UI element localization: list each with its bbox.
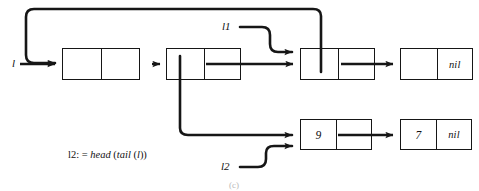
list-node-5-car: 9 (301, 120, 336, 149)
list-node-4: nil (400, 48, 473, 80)
assignment-caption: l2: = head (tail (l)) (68, 149, 147, 160)
figure-number: (c) (229, 180, 239, 190)
list-node-3-cdr (338, 49, 375, 79)
pointer-label-l1: l1 (222, 20, 231, 32)
pointer-label-l2: l2 (221, 160, 230, 172)
list-node-3 (300, 48, 375, 80)
list-node-4-car (401, 49, 437, 79)
list-node-1-cdr (101, 49, 139, 79)
list-node-2-car (167, 49, 204, 79)
edge-l2-to-node5 (240, 146, 292, 167)
caption-close-parens: )) (140, 149, 147, 160)
edge-l1-to-node3 (240, 27, 292, 52)
list-node-6-cdr: nil (436, 120, 471, 149)
list-node-1-car (63, 49, 101, 79)
list-node-1 (62, 48, 140, 80)
list-node-2-cdr (204, 49, 241, 79)
list-node-4-cdr: nil (437, 49, 473, 79)
list-node-2 (166, 48, 241, 80)
list-node-5: 9 (300, 119, 372, 150)
list-node-5-cdr (336, 120, 371, 149)
caption-head-fn: head (90, 149, 110, 160)
linked-list-diagram: l l1 l2 nil 9 7 nil l2: = head (tail (l)… (0, 0, 479, 191)
list-node-6-car: 7 (401, 120, 436, 149)
pointer-label-l: l (12, 57, 15, 69)
list-node-6: 7 nil (400, 119, 472, 150)
list-node-3-car (301, 49, 338, 79)
caption-tail-fn: tail (117, 149, 131, 160)
caption-prefix: l2: = (68, 149, 90, 160)
diagram-wires (0, 0, 479, 191)
